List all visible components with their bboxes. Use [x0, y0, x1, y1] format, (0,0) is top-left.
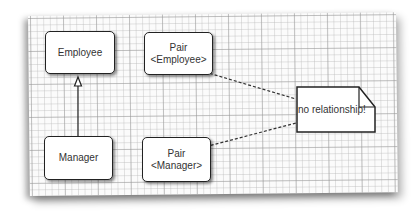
class-name: Pair	[170, 42, 188, 54]
class-name: Manager	[59, 152, 98, 164]
class-pair-employee: Pair <Employee>	[144, 32, 213, 75]
type-parameter: <Manager>	[151, 160, 202, 172]
class-employee: Employee	[45, 31, 115, 74]
note-text: no relationship!	[298, 104, 366, 115]
class-pair-manager: Pair <Manager>	[142, 137, 211, 182]
uml-note: no relationship!	[296, 86, 376, 132]
class-name: Pair	[168, 148, 186, 160]
class-manager: Manager	[44, 136, 113, 180]
type-parameter: <Employee>	[150, 54, 206, 66]
class-name: Employee	[58, 47, 102, 59]
